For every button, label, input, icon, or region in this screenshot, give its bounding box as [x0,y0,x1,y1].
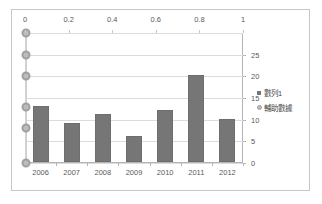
bar-2007[interactable] [64,123,80,162]
bar-2012[interactable] [219,119,235,162]
right-axis-tick-label: 25 [251,50,259,59]
gridline [25,55,243,56]
top-axis-tick-mark [69,30,70,33]
top-axis-tick-label: 0.8 [194,15,204,24]
legend-item-aux[interactable]: 輔助數據 [257,101,311,114]
category-label-2008: 2008 [95,168,112,177]
category-label-2012: 2012 [219,168,236,177]
circle-marker-icon [257,105,262,110]
top-axis-tick-label: 0.6 [151,15,161,24]
legend-item-series1[interactable]: 數列1 [257,86,311,99]
category-label-2011: 2011 [188,168,204,177]
category-axis-tick-mark [212,163,213,166]
category-label-2010: 2010 [157,168,174,177]
legend-label-series1: 數列1 [264,87,282,98]
top-axis-tick-label: 0 [23,15,27,24]
top-axis-tick-mark [243,30,244,33]
right-axis-tick-mark [243,120,246,121]
aux-marker-1[interactable] [22,50,31,59]
gridline [25,33,243,34]
category-axis-tick-mark [118,163,119,166]
top-axis-tick-label: 1 [241,15,245,24]
right-axis-tick-mark [243,76,246,77]
right-axis-tick-mark [243,55,246,56]
aux-marker-2[interactable] [22,72,31,81]
right-axis-tick-label: 5 [251,137,255,146]
category-label-2009: 2009 [126,168,143,177]
chart-frame: 00.20.40.60.81 0510152025 20062007200820… [11,9,310,191]
category-axis-tick-mark [243,163,244,166]
aux-marker-0[interactable] [22,29,31,38]
category-axis-tick-mark [56,163,57,166]
right-axis-tick-label: 20 [251,72,259,81]
plot-area [25,33,243,163]
bar-2008[interactable] [95,114,111,162]
category-axis-tick-mark [150,163,151,166]
top-axis-tick-mark [112,30,113,33]
bar-2006[interactable] [33,106,49,162]
top-axis-tick-mark [156,30,157,33]
legend-label-aux: 輔助數據 [264,102,292,113]
aux-marker-3[interactable] [22,102,31,111]
right-axis-tick-mark [243,141,246,142]
category-label-2006: 2006 [32,168,49,177]
gridline [25,76,243,77]
top-axis-tick-mark [199,30,200,33]
right-axis-tick-label: 0 [251,159,255,168]
gridline [25,120,243,121]
aux-marker-5[interactable] [22,159,31,168]
top-axis-tick-label: 0.2 [63,15,73,24]
category-axis-tick-mark [181,163,182,166]
chart-legend: 數列1 輔助數據 [257,86,311,116]
square-marker-icon [257,91,261,95]
top-axis-tick-mark [25,30,26,33]
bar-2011[interactable] [188,75,204,162]
top-axis-tick-label: 0.4 [107,15,117,24]
category-label-2007: 2007 [63,168,80,177]
category-axis-tick-mark [87,163,88,166]
right-axis-tick-mark [243,98,246,99]
aux-marker-4[interactable] [22,124,31,133]
gridline [25,98,243,99]
bar-2009[interactable] [126,136,142,162]
bar-2010[interactable] [157,110,173,162]
gridline [25,163,243,164]
right-axis-tick-label: 10 [251,115,259,124]
